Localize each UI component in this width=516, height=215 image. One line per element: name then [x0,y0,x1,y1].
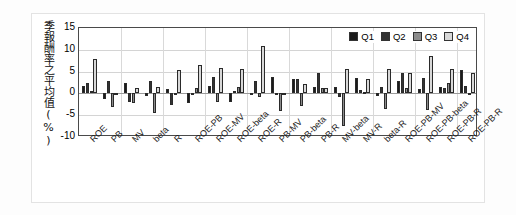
bar-group [121,28,142,135]
bar-q1 [271,77,274,94]
legend-item-q1: Q1 [349,32,374,42]
bar-group [394,28,415,135]
bar-q3 [300,93,303,106]
bar-q2 [149,81,152,94]
bar-q4 [408,73,411,93]
bar-q3 [153,93,156,113]
bar-q3 [174,93,177,95]
bar-q2 [254,81,257,93]
bar-group [163,28,184,135]
bar-q3 [132,93,135,103]
chart-legend: Q1Q2Q3Q4 [346,31,472,43]
bar-q4 [198,65,201,94]
bar-group [100,28,121,135]
legend-label: Q3 [425,32,438,42]
legend-label: Q2 [393,32,406,42]
legend-item-q3: Q3 [413,32,438,42]
bar-q1 [250,93,253,95]
bar-q3 [342,93,345,126]
bar-q4 [135,88,138,93]
legend-label: Q4 [456,32,469,42]
y-tick-label: -10 [49,131,75,141]
bar-q4 [450,69,453,93]
bar-q3 [468,93,471,95]
bar-q3 [279,93,282,110]
legend-label: Q1 [361,32,374,42]
bar-q2 [191,93,194,95]
bar-q1 [103,93,106,98]
x-axis-tick-labels: ROEPBMVbetaRROE-PBROE-MVROE-betaROE-RPB-… [78,137,477,207]
bar-q4 [303,84,306,93]
bar-q4 [471,73,474,93]
legend-swatch-icon [444,32,453,41]
bar-q4 [114,93,117,95]
bar-q4 [93,59,96,94]
chart-figure: 季報酬率之平均值(%) 151050-5-10 Q1Q2Q3Q4 ROEPBMV… [0,0,516,215]
bar-q4 [177,70,180,93]
y-axis-tick-labels: 151050-5-10 [49,0,75,215]
legend-item-q2: Q2 [381,32,406,42]
bar-group [184,28,205,135]
bar-q4 [261,46,264,93]
y-tick-label: 15 [49,22,75,32]
bar-q4 [387,69,390,93]
bar-q1 [229,93,232,102]
bar-group [142,28,163,135]
bar-q4 [156,87,159,94]
legend-swatch-icon [413,32,422,41]
bar-q3 [384,93,387,108]
bar-group [79,28,100,135]
bar-group [373,28,394,135]
bar-q3 [216,93,219,102]
legend-item-q4: Q4 [444,32,469,42]
bar-q4 [429,56,432,93]
bar-q4 [324,88,327,94]
legend-swatch-icon [381,32,390,41]
bar-q4 [240,69,243,93]
bar-q3 [258,93,261,97]
bar-q2 [296,79,299,93]
bar-q1 [376,93,379,96]
y-tick-label: 0 [49,87,75,97]
bar-q3 [111,93,114,107]
bar-q2 [422,78,425,93]
bar-q2 [212,77,215,93]
bar-q4 [219,68,222,93]
bar-q4 [282,93,285,95]
bar-q4 [345,69,348,93]
bar-q4 [366,79,369,93]
y-tick-label: 5 [49,66,75,76]
bar-q2 [464,86,467,93]
legend-swatch-icon [349,32,358,41]
bar-q1 [124,83,127,94]
bar-q2 [107,81,110,93]
y-tick-label: -5 [49,109,75,119]
bar-q3 [426,93,429,110]
bar-q1 [145,93,148,95]
y-tick-label: 10 [49,44,75,54]
bar-group [331,28,352,135]
